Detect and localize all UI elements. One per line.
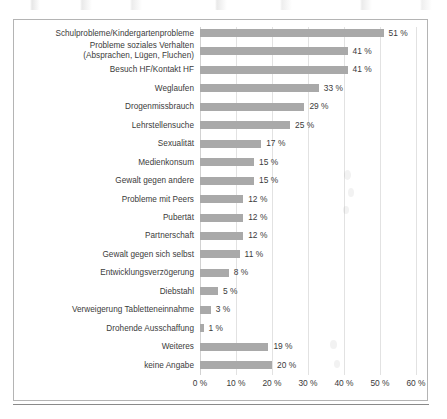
x-tick-label-40: 40 % (334, 378, 353, 388)
bar (200, 158, 254, 166)
bar (200, 250, 240, 258)
category-label: Diebstahl (20, 287, 194, 297)
bar (200, 84, 319, 92)
bar-value-label: 8 % (234, 267, 249, 277)
category-label: Lehrstellensuche (20, 121, 194, 131)
bar-value-label: 17 % (266, 138, 285, 148)
chart-page: Schulprobleme/Kindergartenprobleme51 %Pr… (0, 0, 447, 419)
bar-value-label: 5 % (223, 286, 238, 296)
category-label: Weglaufen (20, 84, 194, 94)
x-tick-label-60: 60 % (406, 378, 425, 388)
bar-value-label: 1 % (209, 323, 224, 333)
x-axis: 0 %10 %20 %30 %40 %50 %60 % (14, 378, 429, 398)
x-tick-label-30: 30 % (298, 378, 317, 388)
bar (200, 343, 268, 351)
category-label: Probleme soziales Verhalten (Absprachen,… (20, 41, 194, 60)
category-label: Entwicklungsverzögerung (20, 268, 194, 278)
chart-frame: Schulprobleme/Kindergartenprobleme51 %Pr… (13, 19, 428, 401)
bar-value-label: 51 % (389, 28, 408, 38)
category-label: Medienkonsum (20, 158, 194, 168)
scan-artifact (0, 0, 447, 10)
bar-value-label: 19 % (273, 341, 292, 351)
bar-rows: Schulprobleme/Kindergartenprobleme51 %Pr… (14, 20, 429, 402)
bar (200, 47, 348, 55)
bar-value-label: 20 % (277, 360, 296, 370)
x-tick-label-50: 50 % (370, 378, 389, 388)
page-divider (13, 404, 429, 405)
bar-value-label: 11 % (245, 249, 264, 259)
bar-value-label: 12 % (248, 212, 267, 222)
bar (200, 29, 384, 37)
bar (200, 306, 211, 314)
bar (200, 232, 243, 240)
bar-value-label: 29 % (309, 101, 328, 111)
bar-value-label: 33 % (324, 83, 343, 93)
category-label: Verweigerung Tabletteneinnahme (20, 305, 194, 315)
x-tick-label-10: 10 % (226, 378, 245, 388)
bar-value-label: 41 % (353, 46, 372, 56)
category-label: Partnerschaft (20, 231, 194, 241)
bar (200, 66, 348, 74)
x-tick-label-20: 20 % (262, 378, 281, 388)
bar-value-label: 15 % (259, 157, 278, 167)
bar (200, 287, 218, 295)
bar (200, 324, 204, 332)
category-label: Besuch HF/Kontakt HF (20, 65, 194, 75)
category-label: Sexualität (20, 139, 194, 149)
category-label: Gewalt gegen sich selbst (20, 250, 194, 260)
bar (200, 361, 272, 369)
category-label: Probleme mit Peers (20, 195, 194, 205)
category-label: Pubertät (20, 213, 194, 223)
bar (200, 121, 290, 129)
bar-value-label: 3 % (216, 304, 231, 314)
category-label: Drohende Ausschaffung (20, 324, 194, 334)
category-label: Gewalt gegen andere (20, 176, 194, 186)
bar (200, 269, 229, 277)
bar (200, 177, 254, 185)
category-label: Drogenmissbrauch (20, 102, 194, 112)
bar (200, 103, 304, 111)
category-label: Schulprobleme/Kindergartenprobleme (20, 29, 194, 39)
category-label: Weiteres (20, 342, 194, 352)
bar-value-label: 12 % (248, 194, 267, 204)
bar-value-label: 12 % (248, 230, 267, 240)
bar-value-label: 25 % (295, 120, 314, 130)
x-tick-label-0: 0 % (193, 378, 208, 388)
category-label: keine Angabe (20, 361, 194, 371)
bar (200, 214, 243, 222)
plot-area: Schulprobleme/Kindergartenprobleme51 %Pr… (14, 20, 429, 402)
bar-value-label: 15 % (259, 175, 278, 185)
bar (200, 140, 261, 148)
bar (200, 195, 243, 203)
bar-value-label: 41 % (353, 64, 372, 74)
